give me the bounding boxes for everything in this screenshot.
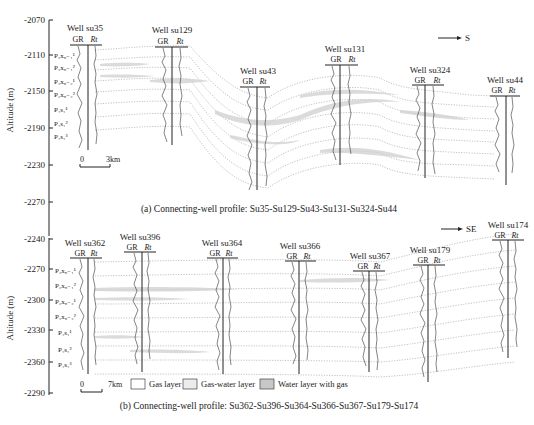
svg-text:Well su364: Well su364	[202, 238, 243, 248]
svg-text:Well su35: Well su35	[67, 23, 104, 33]
svg-text:Well su396: Well su396	[120, 232, 161, 242]
well-su35: Well su35 GR Rt	[67, 23, 104, 150]
svg-text:GR: GR	[414, 76, 426, 85]
panel-a-layer-labels: P₂x₈₋₁¹ P₂x₈₋₁² P₂x₈₋₂¹ P₂x₈₋₂² P₁s₁¹ P₁…	[54, 52, 75, 141]
svg-text:Rt: Rt	[175, 37, 184, 46]
svg-text:Rt: Rt	[89, 35, 98, 44]
legend: Gas layer Gas-water layer Water layer wi…	[131, 379, 348, 389]
svg-text:-2270: -2270	[24, 264, 45, 274]
svg-text:Rt: Rt	[432, 76, 441, 85]
legend-swatch-gas-water	[183, 379, 197, 389]
svg-text:7km: 7km	[108, 380, 123, 389]
svg-text:Rt: Rt	[224, 249, 233, 258]
svg-text:-2240: -2240	[24, 234, 45, 244]
svg-text:GR: GR	[242, 77, 254, 86]
svg-text:GR: GR	[330, 55, 342, 64]
well-su366: Well su366 GR Rt	[280, 241, 321, 374]
svg-text:Well su366: Well su366	[280, 241, 321, 251]
svg-text:Rt: Rt	[432, 256, 441, 265]
svg-text:Well su131: Well su131	[325, 44, 366, 54]
svg-text:P₂x₈₋₂¹: P₂x₈₋₂¹	[54, 78, 75, 86]
well-su179: Well su179 GR Rt	[410, 245, 451, 382]
well-profile-figure: -2070 -2110 -2150 -2190 -2230 -2270 Alti…	[0, 0, 534, 425]
svg-text:P₁s₁²: P₁s₁²	[54, 120, 68, 128]
svg-text:P₂x₈₋₁²: P₂x₈₋₁²	[55, 282, 76, 290]
well-su367: Well su367 GR Rt	[350, 251, 391, 372]
panel-b-direction-arrow: SE	[441, 224, 477, 234]
panel-a-caption: (a) Connecting-well profile: Su35-Su129-…	[141, 204, 397, 215]
ytick: -2070	[24, 15, 45, 25]
ytick: -2230	[24, 160, 45, 170]
svg-text:P₂x₈₋₂²: P₂x₈₋₂²	[54, 91, 75, 99]
svg-text:P₂x₈₋₂²: P₂x₈₋₂²	[55, 313, 76, 321]
ytick: -2150	[24, 86, 45, 96]
svg-text:GR: GR	[74, 249, 86, 258]
well-su44: Well su44 GR Rt	[487, 75, 524, 185]
panel-b-layer-labels: P₂x₈₋₁¹ P₂x₈₋₁² P₂x₈₋₂¹ P₂x₈₋₂² P₁s₁¹ P₁…	[55, 267, 76, 369]
svg-text:-2330: -2330	[24, 325, 45, 335]
svg-text:-2300: -2300	[24, 295, 45, 305]
well-su174: Well su174 GR Rt	[488, 220, 529, 358]
svg-text:GR: GR	[157, 37, 169, 46]
svg-text:P₁s₁³: P₁s₁³	[58, 361, 72, 369]
svg-text:Rt: Rt	[143, 243, 152, 252]
svg-text:-2290: -2290	[24, 388, 45, 398]
svg-text:Rt: Rt	[372, 262, 381, 271]
svg-text:GR: GR	[491, 86, 503, 95]
svg-text:Rt: Rt	[510, 231, 519, 240]
panel-b-scale-bar: 0 7km	[80, 380, 123, 392]
svg-text:GR: GR	[286, 252, 298, 261]
legend-swatch-gas	[131, 379, 145, 389]
well-su43: Well su43 GR Rt	[240, 66, 277, 190]
gas-layer-lenses	[95, 278, 390, 353]
svg-text:P₂x₈₋₁¹: P₂x₈₋₁¹	[54, 52, 75, 60]
svg-text:P₂x₈₋₂¹: P₂x₈₋₂¹	[55, 298, 76, 306]
svg-text:P₁s₁³: P₁s₁³	[54, 133, 68, 141]
svg-text:P₁s₁¹: P₁s₁¹	[58, 329, 72, 337]
svg-text:S: S	[465, 33, 470, 43]
panel-a-direction-arrow: S	[438, 33, 470, 43]
y-axis-label: Altitude (m)	[5, 296, 15, 341]
svg-text:Water layer with gas: Water layer with gas	[278, 379, 348, 389]
svg-text:Rt: Rt	[258, 77, 267, 86]
svg-text:P₁s₁²: P₁s₁²	[58, 346, 72, 354]
panel-a-scale-bar: 0 3km	[80, 155, 121, 167]
svg-text:P₂x₈₋₁²: P₂x₈₋₁²	[54, 64, 75, 72]
svg-text:GR: GR	[357, 262, 369, 271]
svg-text:-2360: -2360	[24, 357, 45, 367]
svg-text:GR: GR	[417, 256, 429, 265]
svg-text:Gas-water layer: Gas-water layer	[201, 379, 255, 389]
legend-swatch-water-with-gas	[260, 379, 274, 389]
panel-b-caption: (b) Connecting-well profile: Su362-Su396…	[120, 401, 419, 412]
svg-text:SE: SE	[466, 224, 477, 234]
svg-text:Well su367: Well su367	[350, 251, 391, 261]
svg-text:P₁s₁¹: P₁s₁¹	[54, 106, 68, 114]
svg-text:P₂x₈₋₁¹: P₂x₈₋₁¹	[55, 267, 76, 275]
svg-text:Well su362: Well su362	[65, 238, 106, 248]
svg-text:Well su43: Well su43	[240, 66, 277, 76]
y-axis-label: Altitude (m)	[5, 88, 15, 133]
well-su324: Well su324 GR Rt	[410, 65, 451, 178]
panel-b: -2240 -2270 -2300 -2330 -2360 -2290 Alti…	[5, 220, 529, 412]
svg-text:GR: GR	[209, 249, 221, 258]
svg-text:Rt: Rt	[89, 249, 98, 258]
svg-text:Well su129: Well su129	[152, 25, 193, 35]
svg-text:0: 0	[80, 155, 84, 164]
svg-text:Rt: Rt	[347, 55, 356, 64]
svg-text:GR: GR	[494, 231, 506, 240]
svg-text:3km: 3km	[106, 155, 121, 164]
svg-text:Well su174: Well su174	[488, 220, 529, 230]
svg-text:Rt: Rt	[302, 252, 311, 261]
svg-text:Well su44: Well su44	[487, 75, 524, 85]
svg-text:Rt: Rt	[507, 86, 516, 95]
svg-text:GR: GR	[126, 243, 138, 252]
svg-text:Gas layer: Gas layer	[149, 379, 182, 389]
ytick: -2110	[24, 50, 45, 60]
svg-text:Well su324: Well su324	[410, 65, 451, 75]
svg-text:GR: GR	[72, 35, 84, 44]
well-su364: Well su364 GR Rt	[202, 238, 243, 374]
ytick: -2270	[24, 197, 45, 207]
svg-text:Well su179: Well su179	[410, 245, 451, 255]
ytick: -2190	[24, 123, 45, 133]
svg-text:0: 0	[80, 380, 84, 389]
